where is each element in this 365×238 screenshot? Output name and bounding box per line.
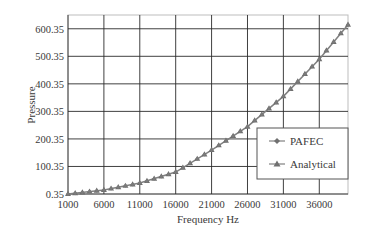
x-tick-label: 21000: [198, 199, 224, 210]
x-tick-label: 36000: [306, 199, 332, 210]
y-tick-label: 100.35: [35, 161, 64, 172]
legend-label-pafec: PAFEC: [290, 135, 323, 147]
pressure-frequency-chart: 0.35100.35200.35300.35400.35500.35600.35…: [0, 0, 365, 238]
x-axis-label: Frequency Hz: [177, 213, 239, 225]
x-tick-label: 16000: [163, 199, 189, 210]
legend-label-analytical: Analytical: [290, 158, 336, 170]
x-tick-label: 1000: [58, 199, 79, 210]
x-tick-label: 11000: [127, 199, 153, 210]
y-axis-ticks: 0.35100.35200.35300.35400.35500.35600.35: [35, 24, 64, 200]
y-tick-label: 200.35: [35, 134, 64, 145]
legend: PAFEC Analytical: [257, 128, 348, 179]
x-tick-label: 6000: [93, 199, 114, 210]
x-tick-label: 26000: [234, 199, 260, 210]
y-tick-label: 400.35: [35, 79, 64, 90]
x-axis-ticks: 10006000110001600021000260003100036000: [58, 199, 333, 210]
y-tick-label: 600.35: [35, 24, 64, 35]
y-tick-label: 300.35: [35, 106, 64, 117]
y-tick-label: 500.35: [35, 51, 64, 62]
x-tick-label: 31000: [270, 199, 296, 210]
y-axis-label: Pressure: [25, 86, 37, 123]
